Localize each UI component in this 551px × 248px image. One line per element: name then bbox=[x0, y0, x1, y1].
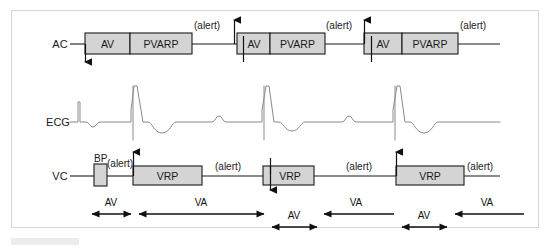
ac-alert-3: (alert) bbox=[460, 20, 486, 31]
ac-row-label: AC bbox=[52, 38, 67, 50]
ecg-row-label: ECG bbox=[46, 116, 70, 128]
vc-alert-4: (alert) bbox=[467, 161, 493, 172]
interval-av-1-label: AV bbox=[105, 197, 118, 208]
interval-row: AV VA AV VA AV VA bbox=[92, 197, 524, 227]
vc-box-vrp-2-label: VRP bbox=[279, 170, 301, 182]
figure-page: AC AV PVARP AV PVARP AV PVARP (alert) (a… bbox=[0, 0, 551, 248]
vc-alert-1: (alert) bbox=[107, 158, 133, 169]
ac-box-av-1-label: AV bbox=[101, 38, 114, 50]
vc-alert-3: (alert) bbox=[346, 161, 372, 172]
ac-box-av-3-label: AV bbox=[376, 38, 389, 50]
pacemaker-timing-diagram: AC AV PVARP AV PVARP AV PVARP (alert) (a… bbox=[0, 0, 551, 248]
ecg-row: ECG bbox=[46, 86, 500, 140]
ac-alert-1: (alert) bbox=[194, 20, 220, 31]
vc-row-label: VC bbox=[52, 170, 67, 182]
interval-va-2-label: VA bbox=[350, 197, 363, 208]
ac-box-av-2-label: AV bbox=[247, 38, 260, 50]
ac-box-pvarp-3-label: PVARP bbox=[413, 38, 448, 50]
vc-alert-2: (alert) bbox=[215, 161, 241, 172]
interval-va-1-label: VA bbox=[195, 197, 208, 208]
vc-bp-label: BP bbox=[94, 153, 108, 164]
ac-box-pvarp-2-label: PVARP bbox=[280, 38, 315, 50]
interval-av-3-label: AV bbox=[418, 210, 431, 221]
interval-va-3-label: VA bbox=[481, 197, 494, 208]
vc-box-bp bbox=[94, 164, 107, 186]
ac-row: AC AV PVARP AV PVARP AV PVARP (alert) (a… bbox=[52, 20, 500, 62]
ac-box-pvarp-1-label: PVARP bbox=[144, 38, 179, 50]
vc-box-vrp-1-label: VRP bbox=[157, 170, 179, 182]
ecg-waveform bbox=[70, 86, 500, 133]
interval-av-2-label: AV bbox=[288, 210, 301, 221]
ac-alert-2: (alert) bbox=[326, 20, 352, 31]
vc-row: VC BP VRP VRP VRP (alert) (alert) (alert… bbox=[52, 152, 500, 190]
vc-box-vrp-3-label: VRP bbox=[419, 170, 441, 182]
